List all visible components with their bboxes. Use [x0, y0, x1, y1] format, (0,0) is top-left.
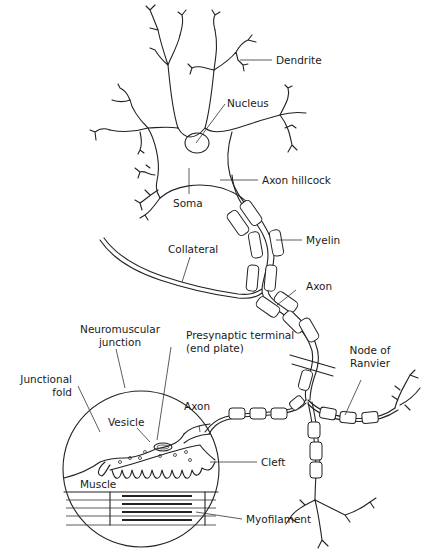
label-node-of-ranvier: Node ofRanvier: [340, 344, 400, 370]
label-collateral: Collateral: [168, 243, 218, 256]
label-neuromuscular-junction: Neuromuscularjunction: [70, 323, 170, 349]
label-soma: Soma: [173, 197, 203, 210]
label-nucleus: Nucleus: [227, 97, 269, 110]
label-myofilament: Myofilament: [246, 513, 311, 526]
label-axon-hillcock: Axon hillcock: [262, 174, 331, 187]
label-myelin: Myelin: [306, 234, 340, 247]
axon-terminal-branches: [205, 395, 398, 500]
label-junctional-fold: Junctionalfold: [8, 373, 72, 399]
label-vesicle: Vesicle: [108, 416, 144, 429]
neuron-illustration: [0, 0, 424, 559]
neuron-diagram: Dendrite Nucleus Axon hillcock Soma Myel…: [0, 0, 424, 559]
label-presynaptic-terminal: Presynaptic terminal(end plate): [186, 329, 294, 355]
neuromuscular-junction-inset: [63, 391, 219, 547]
label-dendrite: Dendrite: [276, 54, 322, 67]
label-axon-inset: Axon: [184, 400, 210, 413]
label-axon-upper: Axon: [306, 280, 332, 293]
label-cleft: Cleft: [261, 456, 285, 469]
dendrite-branches: [90, 5, 297, 220]
label-muscle: Muscle: [80, 478, 116, 491]
myelin-sheaths: [226, 199, 321, 391]
nucleus-shape: [185, 133, 209, 153]
